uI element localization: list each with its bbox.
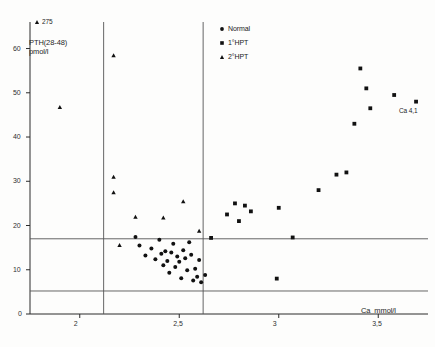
x-tick-label: 2 [74, 320, 78, 327]
y-axis-title-line2: pmol/l [29, 47, 48, 56]
legend-label-1hpt: 1°HPT [228, 39, 248, 46]
axes [26, 22, 428, 318]
x-tick-label: 2,5 [173, 320, 182, 327]
y-tick-label: 0 [18, 310, 22, 317]
x-tick-label: 3 [273, 320, 277, 327]
x-axis-title: Ca mmol/l [361, 306, 396, 315]
figure-container: PTH(28-48) pmol/l Ca mmol/l 275 Ca 4,1 N… [0, 0, 435, 347]
reference-lines [30, 22, 428, 314]
y-tick-label: 10 [13, 266, 21, 273]
y-tick-label: 40 [13, 133, 21, 140]
data-points [58, 53, 418, 284]
y-tick-label: 50 [13, 89, 21, 96]
scatter-plot [0, 0, 435, 347]
legend-label-normal: Normal [228, 25, 250, 32]
y-axis-title-line1: PTH(28-48) [29, 38, 67, 47]
y-tick-label: 20 [13, 222, 21, 229]
legend-markers [220, 27, 224, 59]
annotation-markers [35, 20, 39, 24]
legend-label-2hpt: 2°HPT [228, 53, 248, 60]
y-tick-label: 30 [13, 177, 21, 184]
annotation-ca41: Ca 4,1 [399, 107, 418, 114]
annotation-275: 275 [42, 18, 53, 25]
x-tick-label: 3,5 [372, 320, 381, 327]
y-tick-label: 60 [13, 45, 21, 52]
